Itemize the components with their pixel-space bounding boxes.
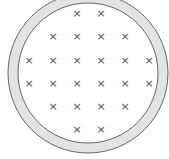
cross-mark: × (120, 54, 129, 67)
cross-mark: × (72, 123, 81, 136)
cross-mark: × (120, 77, 129, 90)
cross-mark: × (72, 30, 81, 43)
cross-mark: × (48, 54, 57, 67)
circular-field-diagram: ×××××××××××××××××××××××× (0, 0, 169, 159)
cross-mark: × (120, 30, 129, 43)
cross-mark: × (96, 54, 105, 67)
cross-mark: × (24, 54, 33, 67)
cross-mark: × (72, 100, 81, 113)
cross-mark: × (72, 77, 81, 90)
cross-mark: × (72, 54, 81, 67)
cross-mark: × (96, 7, 105, 20)
cross-mark: × (144, 54, 153, 67)
cross-mark: × (96, 100, 105, 113)
cross-mark: × (48, 77, 57, 90)
cross-mark: × (96, 30, 105, 43)
cross-mark: × (120, 100, 129, 113)
cross-mark: × (96, 77, 105, 90)
cross-mark: × (96, 123, 105, 136)
cross-mark: × (24, 77, 33, 90)
inner-field (18, 3, 158, 143)
cross-mark: × (72, 7, 81, 20)
cross-mark: × (48, 100, 57, 113)
cross-mark: × (144, 77, 153, 90)
cross-mark: × (48, 30, 57, 43)
